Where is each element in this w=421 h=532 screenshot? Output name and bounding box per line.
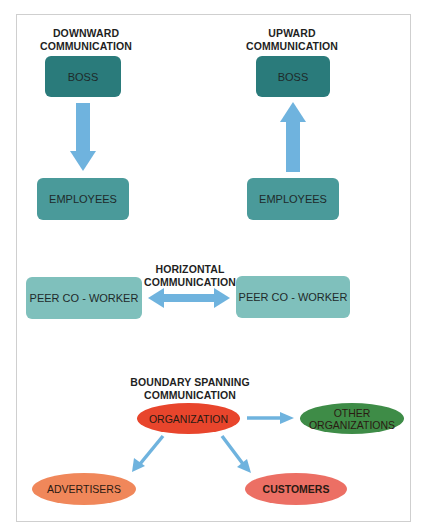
advertisers-node: ADVERTISERS — [32, 473, 136, 505]
customers-node: CUSTOMERS — [245, 473, 347, 505]
down-arrow-icon — [70, 103, 96, 171]
arrow-to-advertisers-icon — [132, 436, 163, 472]
double-arrow-icon — [148, 288, 230, 308]
upward-title: UPWARD COMMUNICATION — [242, 27, 342, 53]
downward-boss-box: BOSS — [45, 56, 121, 97]
arrow-to-customers-icon — [222, 436, 251, 473]
downward-title: DOWNWARD COMMUNICATION — [36, 27, 136, 53]
arrow-to-other-icon — [247, 412, 294, 424]
upward-boss-box: BOSS — [256, 56, 330, 97]
upward-employees-box: EMPLOYEES — [247, 178, 339, 220]
horizontal-title: HORIZONTAL COMMUNICATION — [140, 263, 240, 289]
boundary-title: BOUNDARY SPANNING COMMUNICATION — [110, 376, 270, 402]
other-organizations-node: OTHER ORGANIZATIONS — [300, 403, 404, 434]
peer-coworker-right-box: PEER CO - WORKER — [236, 276, 350, 318]
up-arrow-icon — [280, 102, 306, 172]
downward-employees-box: EMPLOYEES — [37, 178, 129, 220]
organization-node: ORGANIZATION — [137, 403, 240, 434]
peer-coworker-left-box: PEER CO - WORKER — [26, 277, 142, 319]
